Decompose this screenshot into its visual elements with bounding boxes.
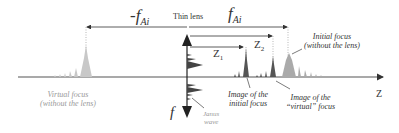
lens-down-arrowhead: [182, 106, 192, 118]
image-virtual-peak: [256, 56, 276, 77]
z1-label: Z1: [213, 47, 223, 62]
image-virtual-label: Image of the “virtual” focus: [286, 93, 335, 111]
pos-focal-label: fAi: [228, 4, 242, 25]
z-axis-label: Z: [376, 88, 382, 99]
neg-focal-label: -fAi: [130, 6, 149, 27]
janus-wave-label: Janus wave: [203, 110, 219, 126]
thin-lens-diagram: -fAi Thin lens fAi Z1 Z2 Initial focus (…: [0, 0, 399, 133]
f-axis-label: f: [170, 104, 174, 121]
janus-leader: [192, 98, 204, 108]
thin-lens-label: Thin lens: [173, 12, 203, 21]
initial-focus-label: Initial focus (without the lens): [304, 32, 360, 50]
initial-focus-peak: [282, 53, 322, 77]
virtual-focus-label: Virtual focus (without the lens): [40, 90, 96, 108]
virtual-focus-peak: [54, 45, 92, 77]
image-virtual-leader: [276, 81, 290, 89]
image-initial-leader: [247, 78, 250, 88]
z2-label: Z2: [254, 38, 264, 53]
image-initial-peak: [234, 48, 249, 77]
initial-focus-leader: [292, 49, 302, 54]
image-initial-label: Image of the initial focus: [228, 90, 268, 108]
